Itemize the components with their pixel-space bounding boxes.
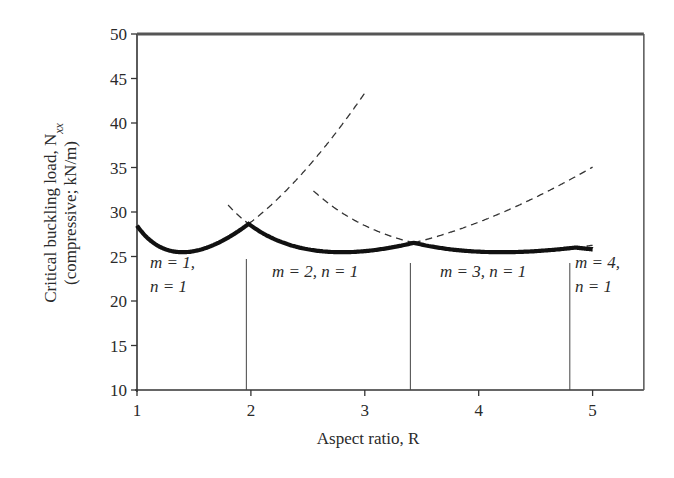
curve-m2-dashed-left: [228, 205, 249, 224]
region-label-m1-n: n = 1: [150, 277, 187, 296]
x-tick-label: 3: [361, 401, 370, 420]
region-label-m2: m = 2, n = 1: [272, 262, 358, 281]
y-tick-label: 50: [110, 25, 127, 44]
y-tick-label: 30: [110, 203, 127, 222]
critical-load-envelope: [137, 224, 593, 252]
svg-text:(compressive; kN/m): (compressive; kN/m): [61, 141, 80, 285]
region-label-m4: m = 4,: [575, 253, 620, 272]
x-tick-label: 5: [588, 401, 597, 420]
curve-m3-dashed-left: [314, 191, 414, 243]
x-axis-title: Aspect ratio, R: [317, 429, 420, 448]
x-tick-label: 1: [133, 401, 142, 420]
x-tick-label: 4: [474, 401, 483, 420]
region-label-m1: m = 1,: [150, 253, 195, 272]
y-tick-label: 15: [110, 337, 127, 356]
axis-ticks: 10152025303540455012345: [110, 25, 597, 420]
buckling-chart: 10152025303540455012345 m = 1, n = 1 m =…: [0, 0, 674, 478]
plot-axes: [135, 34, 644, 392]
curve-m1-dashed: [249, 93, 365, 224]
y-tick-label: 25: [110, 248, 127, 267]
region-label-m3: m = 3, n = 1: [440, 262, 526, 281]
x-tick-label: 2: [247, 401, 256, 420]
y-tick-label: 20: [110, 292, 127, 311]
buckling-curves: [137, 93, 593, 252]
y-axis-title: Critical buckling load, Nxx (compressive…: [41, 122, 80, 302]
curve-m2-dashed-right: [414, 167, 593, 243]
y-tick-label: 40: [110, 114, 127, 133]
y-tick-label: 35: [110, 159, 127, 178]
region-label-m4-n: n = 1: [575, 277, 612, 296]
y-tick-label: 45: [110, 70, 127, 89]
y-tick-label: 10: [110, 381, 127, 400]
